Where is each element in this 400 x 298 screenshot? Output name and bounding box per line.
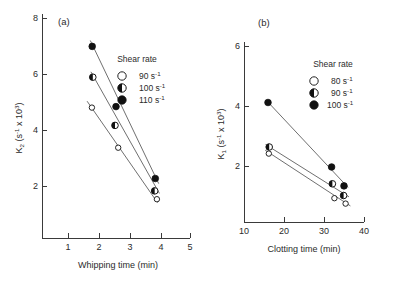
legend-item-110: 110 s-1	[118, 94, 165, 105]
panel-a-ytick-2: 2	[33, 181, 38, 191]
panel-b-xtick-20: 20	[279, 226, 289, 236]
panel-b-ytick-6: 6	[235, 41, 240, 51]
data-point	[328, 164, 335, 171]
panel-a-canvas: (a) 8 6 4 2 1	[0, 0, 200, 298]
panel-a-legend-title: Shear rate	[117, 54, 157, 64]
data-point	[89, 105, 94, 110]
data-point	[116, 145, 121, 150]
panel-b-xtick-30: 30	[319, 226, 329, 236]
open-circle-icon	[118, 72, 126, 80]
figure-container: (a) 8 6 4 2 1	[0, 0, 400, 298]
panel-b-ylabel-mid: x 10	[216, 115, 226, 135]
panel-a-xtick-2: 2	[96, 242, 101, 252]
data-point	[154, 197, 159, 202]
panel-b-ylabel: K1 (s-1 x 103)	[215, 109, 228, 160]
data-point	[265, 99, 272, 106]
panel-b-legend-title: Shear rate	[313, 59, 353, 69]
panel-a-label: (a)	[58, 16, 70, 27]
data-point	[90, 74, 97, 81]
panel-b-ylabel-open: (s	[216, 140, 226, 150]
panel-b-legend-label-80: 80 s-1	[331, 75, 353, 86]
panel-a-xtick-3: 3	[127, 242, 132, 252]
svg-text:K1 (s-1 x 103): K1 (s-1 x 103)	[215, 109, 228, 160]
panel-b-fitline-80	[265, 150, 350, 206]
panel-a-xlabel: Whipping time (min)	[78, 260, 158, 270]
data-point	[266, 144, 273, 151]
panel-a-legend-label-100: 100 s-1	[139, 82, 166, 93]
data-point	[329, 181, 336, 188]
data-point	[341, 183, 348, 190]
panel-a-ytick-8: 8	[33, 13, 38, 23]
panel-a-xtick-5: 5	[187, 242, 192, 252]
panel-b-xlabel: Clotting time (min)	[267, 244, 340, 254]
panel-b: (b) 6 4 2 10 20 30 40	[200, 0, 400, 298]
panel-b-label: (b)	[258, 17, 270, 28]
panel-b-ytick-2: 2	[235, 161, 240, 171]
panel-a: (a) 8 6 4 2 1	[0, 0, 200, 298]
data-point	[340, 192, 347, 199]
panel-b-fitline-100	[266, 100, 348, 187]
data-point	[266, 151, 271, 156]
panel-b-y-ticks: 6 4 2	[235, 41, 249, 171]
filled-circle-icon	[310, 101, 318, 109]
panel-b-ylabel-close: )	[216, 109, 226, 112]
panel-a-legend-label-110: 110 s-1	[139, 94, 165, 105]
data-point	[113, 103, 120, 110]
panel-b-ytick-4: 4	[235, 101, 240, 111]
data-point	[89, 43, 96, 50]
panel-a-fit-lines	[87, 41, 159, 203]
panel-b-series-100-markers	[265, 99, 348, 189]
panel-a-ylabel: K2 (s-1 x 103)	[13, 103, 26, 154]
panel-a-fitline-90	[87, 101, 157, 202]
data-point	[151, 188, 158, 195]
panel-a-ytick-6: 6	[33, 69, 38, 79]
legend-item-100: 100 s-1	[310, 99, 354, 110]
panel-a-xtick-1: 1	[65, 242, 70, 252]
panel-a-ylabel-close: )	[14, 103, 24, 106]
panel-b-legend-label-90: 90 s-1	[331, 87, 353, 98]
panel-b-x-ticks: 10 20 30 40	[239, 217, 369, 236]
legend-item-90: 90 s-1	[118, 70, 161, 81]
svg-text:K2 (s-1 x 103): K2 (s-1 x 103)	[13, 103, 26, 154]
panel-b-fitline-90	[266, 145, 349, 197]
panel-b-fit-lines	[265, 100, 350, 205]
data-point	[152, 175, 159, 182]
panel-a-x-ticks: 1 2 3 4 5	[65, 233, 192, 252]
legend-item-80: 80 s-1	[310, 75, 353, 86]
filled-circle-icon	[118, 96, 126, 104]
panel-a-legend-label-90: 90 s-1	[139, 70, 161, 81]
panel-a-y-ticks: 8 6 4 2	[33, 13, 47, 191]
data-point	[112, 122, 119, 129]
panel-a-ylabel-mid: x 10	[14, 109, 24, 129]
data-point	[343, 201, 348, 206]
data-point	[332, 196, 337, 201]
panel-b-xtick-10: 10	[239, 226, 249, 236]
panel-a-ylabel-open: (s	[14, 134, 24, 144]
panel-a-ytick-4: 4	[33, 125, 38, 135]
panel-b-xtick-40: 40	[359, 226, 369, 236]
open-circle-icon	[310, 77, 318, 85]
legend-item-90: 90 s-1	[310, 87, 353, 98]
panel-a-legend: Shear rate 90 s-1 100 s-1	[117, 54, 166, 105]
panel-b-canvas: (b) 6 4 2 10 20 30 40	[200, 0, 400, 298]
panel-b-legend-label-100: 100 s-1	[327, 99, 354, 110]
panel-b-legend: Shear rate 80 s-1 90 s-1	[310, 59, 354, 110]
legend-item-100: 100 s-1	[118, 82, 166, 93]
panel-a-xtick-4: 4	[158, 242, 163, 252]
